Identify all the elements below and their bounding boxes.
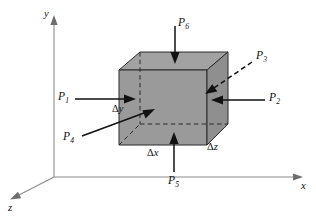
force-label-p1: P1 (58, 91, 69, 103)
delta-var-y: y (119, 103, 124, 114)
force-label-p3: P3 (256, 50, 267, 62)
delta-symbol-z: Δ (207, 141, 214, 152)
delta-symbol-x: Δ (147, 147, 154, 158)
cube-face-front (119, 70, 207, 145)
delta-symbol-y: Δ (112, 103, 119, 114)
force-label-p1-letter: P (58, 90, 65, 102)
z-axis (10, 177, 54, 200)
force-label-p2-sub: 2 (276, 97, 280, 106)
force-label-p6-letter: P (178, 16, 185, 28)
dimension-label-delta-z: Δz (207, 142, 218, 153)
force-label-p5-letter: P (168, 174, 175, 186)
axis-label-y: y (44, 9, 49, 20)
force-label-p2: P2 (269, 92, 280, 104)
pressure-force-diagram: y x z P1 P2 P3 P4 P5 P6 Δy Δx Δz (0, 0, 316, 222)
force-label-p5: P5 (168, 175, 179, 187)
force-arrow-p1 (75, 94, 136, 103)
force-label-p2-letter: P (269, 91, 276, 103)
force-label-p6: P6 (178, 17, 189, 29)
y-axis (50, 15, 57, 177)
force-label-p3-sub: 3 (263, 55, 267, 64)
dimension-label-delta-x: Δx (147, 148, 158, 159)
delta-var-x: x (154, 147, 159, 158)
dimension-label-delta-y: Δy (112, 104, 123, 115)
force-label-p4-sub: 4 (70, 136, 74, 145)
force-label-p3-letter: P (256, 49, 263, 61)
force-label-p5-sub: 5 (175, 180, 179, 189)
fluid-element-cube (119, 52, 228, 145)
diagram-canvas (0, 0, 316, 222)
force-label-p1-sub: 1 (65, 96, 69, 105)
axis-label-z: z (8, 203, 12, 214)
delta-var-z: z (214, 141, 218, 152)
axis-label-x: x (301, 181, 306, 192)
force-label-p4-letter: P (63, 130, 70, 142)
force-label-p4: P4 (63, 131, 74, 143)
force-label-p6-sub: 6 (185, 22, 189, 31)
